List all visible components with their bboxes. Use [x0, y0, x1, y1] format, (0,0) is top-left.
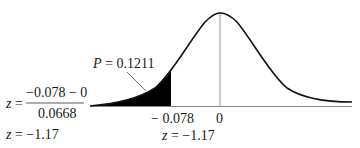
formula-result: z = −1.17 — [6, 128, 59, 142]
center-label: 0 — [216, 112, 223, 126]
probability-label: P = 0.1211 — [93, 57, 154, 71]
cutoff-label: − 0.078 — [151, 112, 194, 126]
formula-lhs: z = — [6, 97, 23, 111]
formula-denominator: 0.0668 — [38, 107, 77, 121]
shaded-tail-region — [90, 71, 171, 106]
formula-numerator: −0.078 − 0 — [26, 86, 87, 100]
probability-leader-line — [127, 72, 146, 91]
probability-var: P — [93, 56, 102, 71]
cutoff-z-label: z = −1.17 — [162, 129, 215, 143]
probability-value: 0.1211 — [116, 56, 154, 71]
